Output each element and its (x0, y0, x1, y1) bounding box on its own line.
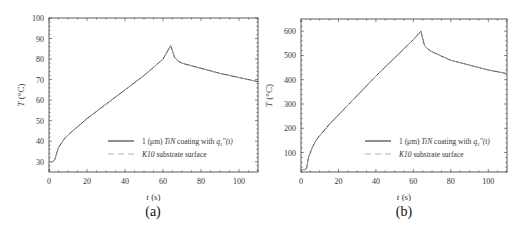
y-tick-label: 80 (36, 55, 44, 64)
legend-entry: 1 (μm) TiN coating with q1''(t) (142, 137, 233, 147)
panel-caption: (a) (145, 204, 161, 220)
x-tick-label: 60 (409, 177, 417, 186)
x-tick-label: 80 (447, 177, 455, 186)
y-tick-label: 70 (36, 76, 44, 85)
legend-entry: K10 substrate surface (398, 150, 464, 159)
x-axis-label: t (s) (397, 192, 411, 202)
panel-caption: (b) (396, 204, 413, 220)
y-tick-label: 300 (284, 100, 296, 109)
y-tick-label: 100 (284, 149, 296, 158)
x-tick-label: 100 (233, 177, 245, 186)
y-tick-label: 60 (36, 96, 44, 105)
y-tick-label: 40 (36, 137, 44, 146)
chart-panel-b: 0204060801001002003004005006001 (μm) TiN… (264, 19, 507, 220)
legend-entry: K10 substrate surface (141, 150, 207, 159)
x-tick-label: 40 (121, 177, 129, 186)
x-tick-label: 0 (47, 177, 51, 186)
x-tick-label: 60 (159, 177, 167, 186)
legend-entry: 1 (μm) TiN coating with q2''(t) (399, 137, 490, 147)
figure: 020406080100304050607080901001 (μm) TiN … (0, 0, 526, 233)
y-tick-label: 400 (284, 76, 296, 85)
y-axis-label: T (°C) (264, 84, 274, 107)
x-tick-label: 20 (334, 177, 342, 186)
x-tick-label: 80 (197, 177, 205, 186)
y-tick-label: 600 (284, 27, 296, 36)
series-tin-coating (301, 31, 507, 170)
chart-panel-a: 020406080100304050607080901001 (μm) TiN … (16, 14, 258, 220)
y-axis-label: T (°C) (16, 84, 26, 107)
x-tick-label: 0 (299, 177, 303, 186)
y-tick-label: 200 (284, 124, 296, 133)
y-tick-label: 500 (284, 51, 296, 60)
plot-frame (49, 18, 258, 172)
x-tick-label: 20 (83, 177, 91, 186)
x-axis-label: t (s) (146, 192, 160, 202)
y-tick-label: 30 (36, 158, 44, 167)
series-k10-substrate (301, 32, 507, 170)
x-tick-label: 40 (372, 177, 380, 186)
y-tick-label: 90 (36, 35, 44, 44)
y-tick-label: 50 (36, 117, 44, 126)
y-tick-label: 100 (32, 14, 44, 23)
x-tick-label: 100 (482, 177, 494, 186)
